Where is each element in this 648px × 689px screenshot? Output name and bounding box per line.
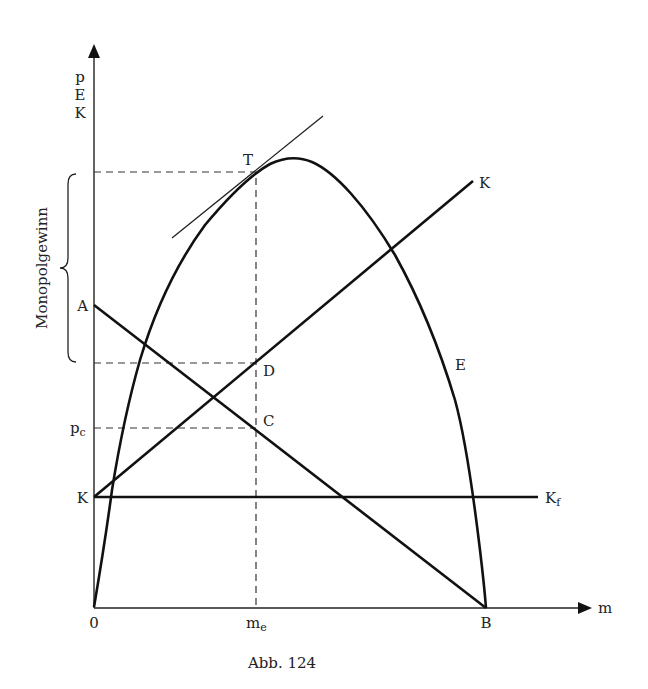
- y-label-E: E: [75, 86, 86, 104]
- label-A: A: [76, 297, 88, 315]
- label-K-line: K: [479, 174, 491, 192]
- label-pc-sub: c: [80, 426, 86, 439]
- tangent-at-T: [172, 116, 323, 238]
- y-axis-arrow-icon: [88, 44, 100, 58]
- x-label-m: m: [598, 599, 612, 617]
- revenue-curve-E: [94, 158, 486, 608]
- label-E: E: [455, 356, 466, 374]
- label-pc-main: p: [70, 419, 80, 437]
- label-K-axis: K: [77, 489, 89, 507]
- figure-caption: Abb. 124: [247, 654, 316, 672]
- monopolgewinn-label: Monopolgewinn: [33, 207, 51, 329]
- cost-line-K: [94, 181, 473, 497]
- label-Kf-sub: f: [556, 496, 561, 509]
- label-pc: pc: [70, 419, 86, 439]
- label-me: me: [246, 614, 267, 634]
- y-label-p: p: [75, 68, 85, 86]
- label-B: B: [480, 614, 491, 632]
- monopoly-diagram: p E K Monopolgewinn A K pc 0 me B m T D …: [0, 0, 648, 689]
- x-axis-arrow-icon: [578, 602, 592, 614]
- monopolgewinn-bracket: [60, 174, 76, 362]
- label-D: D: [263, 362, 275, 380]
- label-Kf: Kf: [545, 489, 561, 509]
- label-T: T: [243, 151, 253, 169]
- demand-line-AB: [94, 305, 486, 608]
- label-C: C: [263, 412, 274, 430]
- label-origin: 0: [89, 614, 99, 632]
- label-Kf-main: K: [545, 489, 557, 507]
- y-label-K: K: [74, 104, 86, 122]
- guide-T: [94, 172, 256, 608]
- label-me-sub: e: [260, 621, 267, 634]
- label-me-main: m: [246, 614, 260, 632]
